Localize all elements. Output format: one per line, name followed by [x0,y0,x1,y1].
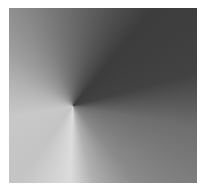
conic-gradient-square [9,8,197,183]
